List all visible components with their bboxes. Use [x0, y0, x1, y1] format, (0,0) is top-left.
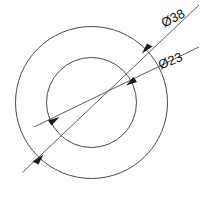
inner-circle	[47, 58, 137, 148]
outer-arrowhead-upper-right	[142, 44, 153, 54]
dimension-label-inner: Ø23	[156, 49, 184, 72]
drawing-svg: Ø38 Ø23	[0, 0, 200, 198]
technical-drawing-canvas: Ø38 Ø23	[0, 0, 200, 198]
dimension-label-outer: Ø38	[159, 6, 188, 31]
